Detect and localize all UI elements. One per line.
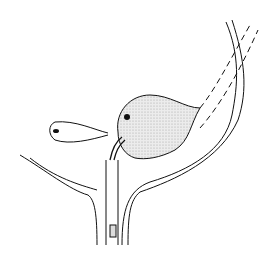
catheter [106, 160, 118, 245]
left-marker [53, 129, 59, 133]
stone-marker [124, 114, 130, 120]
illustration-svg [0, 0, 275, 259]
dashed-duct [200, 25, 258, 128]
anatomical-illustration [0, 0, 275, 259]
gallbladder [118, 95, 200, 159]
